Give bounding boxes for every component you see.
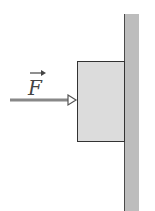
force-label: F: [28, 78, 42, 98]
force-arrow-icon: [0, 0, 155, 211]
